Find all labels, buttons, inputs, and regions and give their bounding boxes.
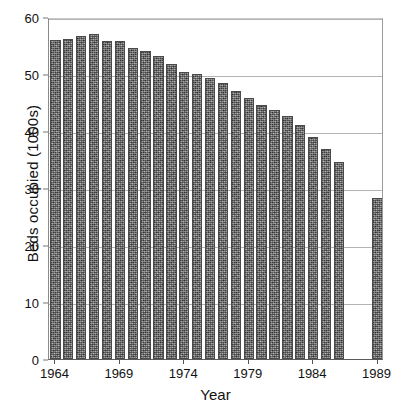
x-tick-mark xyxy=(183,360,184,364)
x-tick-label: 1964 xyxy=(40,366,69,381)
y-tick-label: 20 xyxy=(25,239,39,254)
bar-chart-figure: Beds occupied (1000s) 0102030405060 1964… xyxy=(0,0,406,419)
bar xyxy=(321,149,331,359)
bar xyxy=(218,83,228,359)
bar xyxy=(153,56,163,359)
bar xyxy=(269,110,279,359)
x-tick-mark xyxy=(54,360,55,364)
x-tick-mark xyxy=(312,360,313,364)
bar xyxy=(166,64,176,359)
bar xyxy=(334,162,344,359)
x-tick-mark xyxy=(377,360,378,364)
y-tick-label: 50 xyxy=(25,68,39,83)
x-tick-label: 1984 xyxy=(298,366,327,381)
bar xyxy=(282,116,292,359)
bar xyxy=(76,36,86,359)
plot-area xyxy=(48,18,383,360)
bar xyxy=(205,78,215,359)
y-tick-label: 40 xyxy=(25,125,39,140)
bar xyxy=(192,74,202,359)
bar xyxy=(128,48,138,359)
x-axis-title: Year xyxy=(48,386,383,403)
bar-series xyxy=(49,19,382,359)
bar xyxy=(256,105,266,359)
bar xyxy=(244,98,254,359)
bar xyxy=(179,72,189,359)
bar xyxy=(115,41,125,359)
y-tick-label: 10 xyxy=(25,296,39,311)
y-tick-label: 60 xyxy=(25,11,39,26)
x-tick-label: 1974 xyxy=(169,366,198,381)
bar xyxy=(140,51,150,359)
y-axis-tick-labels: 0102030405060 xyxy=(0,0,48,419)
bar xyxy=(295,125,305,359)
bar xyxy=(372,198,382,359)
bar xyxy=(231,91,241,359)
x-tick-label: 1969 xyxy=(104,366,133,381)
bar xyxy=(308,137,318,359)
x-tick-label: 1979 xyxy=(233,366,262,381)
y-tick-label: 30 xyxy=(25,182,39,197)
x-tick-mark xyxy=(248,360,249,364)
bar xyxy=(102,41,112,359)
bar xyxy=(89,34,99,359)
bar xyxy=(50,40,60,359)
x-tick-label: 1989 xyxy=(362,366,391,381)
bar xyxy=(63,39,73,359)
y-tick-label: 0 xyxy=(32,353,39,368)
x-tick-mark xyxy=(119,360,120,364)
